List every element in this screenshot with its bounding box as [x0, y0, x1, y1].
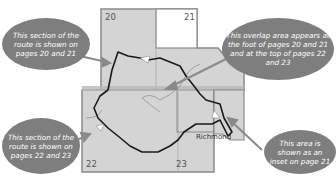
page-number-22: 22	[86, 159, 97, 169]
page-number-21: 21	[184, 12, 195, 22]
callout-text: This section of the route is shown on pa…	[2, 31, 90, 58]
callout-pages-22-23: This section of the route is shown on pa…	[2, 118, 80, 174]
callout-inset: This area is shown as an inset on page 2…	[264, 130, 336, 174]
callout-pages-20-21: This section of the route is shown on pa…	[2, 18, 90, 70]
page-number-20: 20	[105, 12, 116, 22]
callout-text: This area is shown as an inset on page 2…	[264, 139, 336, 166]
callout-overlap: This overlap area appears at the foot of…	[222, 18, 334, 80]
callout-text: This section of the route is shown on pa…	[2, 133, 80, 160]
page-number-23: 23	[176, 159, 187, 169]
callout-text: This overlap area appears at the foot of…	[222, 31, 334, 67]
place-label-richmond: Richmond	[196, 133, 231, 141]
bottom-pages-region	[82, 90, 214, 172]
